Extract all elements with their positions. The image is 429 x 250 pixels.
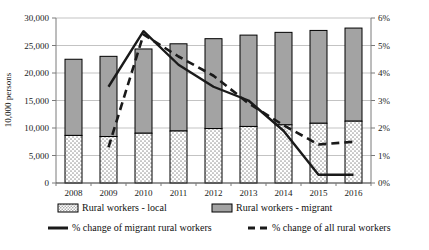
bar-segment-local: [275, 125, 292, 183]
x-tick-label: 2008: [65, 188, 84, 198]
y-tick-left-label: 10,000: [24, 123, 49, 133]
y-tick-left-label: 0: [45, 178, 50, 188]
chart-legend: Rural workers - localRural workers - mig…: [48, 202, 391, 233]
x-tick-label: 2010: [135, 188, 154, 198]
legend-rural-local-label: Rural workers - local: [82, 202, 167, 213]
y-axis-left-title: 10,000 persons: [3, 72, 13, 127]
bar-segment-local: [205, 129, 222, 183]
bar-segment-local: [170, 131, 187, 183]
y-tick-right-label: 6%: [378, 13, 391, 23]
bar-segment-migrant: [65, 59, 82, 135]
legend-pct-all-label: % change of all rural workers: [272, 222, 391, 233]
bar-segment-migrant: [240, 35, 257, 126]
chart-container: 05,00010,00015,00020,00025,00030,000 0%1…: [0, 0, 429, 250]
y-tick-right-label: 0%: [378, 178, 391, 188]
legend-pct-migrant-label: % change of migrant rural workers: [72, 222, 212, 233]
x-tick-label: 2016: [345, 188, 364, 198]
x-tick-label: 2013: [240, 188, 259, 198]
bars-group: [65, 28, 362, 183]
y-tick-left-label: 25,000: [24, 41, 49, 51]
bar-segment-migrant: [310, 30, 327, 123]
x-tick-label: 2011: [170, 188, 188, 198]
legend-rural-local-swatch: [58, 204, 78, 212]
y-tick-left-label: 30,000: [24, 13, 49, 23]
y-axis-right-ticks: 0%1%2%3%4%5%6%: [371, 13, 391, 188]
bar-segment-local: [135, 133, 152, 183]
y-tick-right-label: 5%: [378, 41, 391, 51]
bar-segment-local: [240, 126, 257, 183]
y-tick-right-label: 4%: [378, 68, 391, 78]
y-axis-left-ticks: 05,00010,00015,00020,00025,00030,000: [24, 13, 56, 188]
y-tick-left-label: 5,000: [29, 151, 50, 161]
x-tick-label: 2014: [275, 188, 294, 198]
y-tick-right-label: 3%: [378, 96, 391, 106]
bar-segment-migrant: [100, 56, 117, 136]
x-tick-label: 2012: [205, 188, 223, 198]
y-tick-right-label: 2%: [378, 123, 391, 133]
x-tick-label: 2009: [100, 188, 119, 198]
bar-segment-migrant: [135, 49, 152, 133]
bar-segment-migrant: [275, 32, 292, 125]
y-tick-right-label: 1%: [378, 151, 391, 161]
bar-segment-local: [65, 135, 82, 183]
legend-rural-migrant-label: Rural workers - migrant: [236, 202, 333, 213]
x-axis-ticks: 200820092010201120122013201420152016: [56, 183, 371, 198]
stacked-bar-line-chart: 05,00010,00015,00020,00025,00030,000 0%1…: [0, 0, 429, 250]
y-tick-left-label: 15,000: [24, 96, 49, 106]
y-tick-left-label: 20,000: [24, 68, 49, 78]
legend-rural-migrant-swatch: [212, 204, 232, 212]
x-tick-label: 2015: [310, 188, 329, 198]
bar-segment-migrant: [345, 28, 362, 121]
